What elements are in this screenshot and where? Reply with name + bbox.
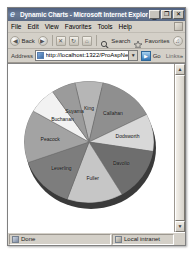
status-done-cell: Done: [9, 234, 111, 245]
favorites-label: Favorites: [145, 36, 170, 46]
address-label: Address: [11, 53, 33, 59]
maximize-glyph: ❐: [162, 11, 171, 18]
go-button[interactable]: Go: [141, 51, 161, 61]
ie-brand-icon: [174, 22, 183, 31]
minimize-glyph: _: [150, 11, 159, 18]
stop-icon: ✕: [56, 36, 66, 46]
content-area: KingCallahanDodsworthDavolioFullerLeverl…: [8, 63, 185, 232]
home-icon: ⌂: [82, 36, 92, 46]
ie-logo-icon: [10, 11, 18, 19]
address-input[interactable]: http://localhost:1322/ProAspNetAdv/: [35, 50, 128, 61]
pie-slice-label: Peacock: [41, 136, 60, 142]
web-page: KingCallahanDodsworthDavolioFullerLeverl…: [8, 64, 174, 232]
back-button[interactable]: ◀ Back: [10, 36, 35, 46]
address-url-text: http://localhost:1322/ProAspNetAdv/: [46, 51, 129, 60]
search-icon: [100, 36, 110, 46]
menu-item-tools[interactable]: Tools: [97, 21, 112, 32]
address-overflow-button[interactable]: »: [180, 53, 183, 59]
stop-button[interactable]: ✕: [56, 36, 66, 46]
media-icon: ♫: [173, 36, 183, 46]
menu-item-favorites[interactable]: Favorites: [65, 21, 92, 32]
links-button[interactable]: Links: [166, 53, 180, 59]
favorites-button[interactable]: Favorites: [133, 36, 169, 46]
refresh-icon: ↻: [69, 36, 79, 46]
status-done-label: Done: [21, 235, 35, 244]
pie-slice-label: Callahan: [103, 110, 123, 116]
vertical-scrollbar[interactable]: ▲ ▼: [174, 64, 185, 232]
search-label: Search: [111, 36, 130, 46]
navigation-toolbar: ◀ Back ▶ ✕ ↻ ⌂ Search Favorites: [8, 33, 185, 49]
toolbar-separator-2: [96, 35, 97, 46]
pie-slice-label: Fuller: [86, 175, 99, 181]
forward-arrow-icon: ▶: [38, 36, 48, 46]
toolbar-separator-1: [52, 35, 53, 46]
menu-bar: File Edit View Favorites Tools Help: [8, 21, 185, 33]
search-button[interactable]: Search: [100, 36, 131, 46]
menu-item-help[interactable]: Help: [119, 21, 132, 32]
pie-slices: [24, 81, 154, 203]
star-icon: [133, 36, 143, 46]
status-bar: Done Local intranet: [8, 232, 185, 245]
pie-slice-label: Suyama: [65, 108, 83, 114]
pie-slice-label: Leverling: [51, 165, 71, 171]
scroll-down-button[interactable]: ▼: [175, 221, 185, 232]
local-intranet-icon: [115, 236, 122, 243]
chevron-down-icon[interactable]: ▼: [128, 50, 138, 61]
scrollbar-track[interactable]: [175, 75, 185, 221]
pie-slice-label: Buchanan: [51, 116, 74, 122]
pie-body: [24, 81, 154, 203]
back-arrow-icon: ◀: [10, 36, 20, 46]
browser-window: Dynamic Charts - Microsoft Internet Expl…: [7, 7, 186, 246]
menu-item-edit[interactable]: Edit: [27, 21, 38, 32]
close-button[interactable]: ✕: [173, 10, 184, 19]
page-favicon-icon: [37, 52, 44, 59]
close-glyph: ✕: [174, 11, 183, 18]
minimize-button[interactable]: _: [149, 10, 160, 19]
pie-slice-label: King: [84, 105, 94, 111]
scrollbar-thumb[interactable]: [175, 75, 185, 221]
maximize-button[interactable]: ❐: [161, 10, 172, 19]
menu-item-view[interactable]: View: [45, 21, 59, 32]
back-label: Back: [22, 36, 35, 46]
status-zone-label: Local intranet: [124, 235, 160, 244]
menu-item-file[interactable]: File: [11, 21, 21, 32]
page-done-icon: [12, 236, 19, 243]
refresh-button[interactable]: ↻: [69, 36, 79, 46]
go-label: Go: [153, 53, 161, 59]
media-button[interactable]: ♫: [173, 36, 183, 46]
scroll-up-button[interactable]: ▲: [175, 64, 185, 75]
forward-button[interactable]: ▶: [38, 36, 48, 46]
go-arrow-icon: [141, 51, 151, 61]
status-zone-cell[interactable]: Local intranet: [112, 234, 174, 245]
pie-slice-label: Davolio: [113, 160, 130, 166]
window-title: Dynamic Charts - Microsoft Internet Expl…: [20, 8, 148, 21]
pie-chart: KingCallahanDodsworthDavolioFullerLeverl…: [24, 81, 158, 215]
address-bar: Address http://localhost:1322/ProAspNetA…: [8, 49, 185, 63]
home-button[interactable]: ⌂: [82, 36, 92, 46]
title-bar: Dynamic Charts - Microsoft Internet Expl…: [8, 8, 185, 21]
pie-slice-label: Dodsworth: [116, 133, 140, 139]
